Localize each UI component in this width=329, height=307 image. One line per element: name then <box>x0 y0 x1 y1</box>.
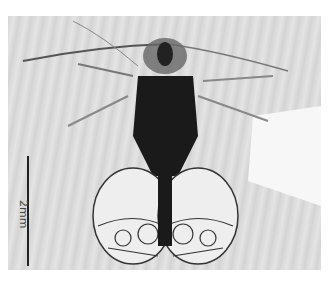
specimen-photo <box>8 16 321 270</box>
specimen-illustration <box>8 16 321 270</box>
scale-bar-label: 2mm <box>17 200 30 228</box>
